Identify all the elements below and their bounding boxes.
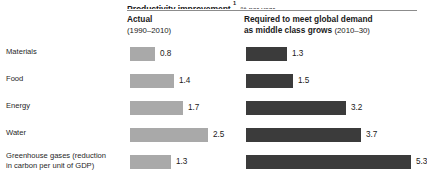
row-label-food-line1: Food	[6, 74, 23, 83]
bar-required-materials	[246, 47, 287, 61]
bar-cell-actual-greenhouse-gases: 1.3	[130, 154, 187, 169]
title-divider	[127, 10, 417, 11]
row-label-greenhouse-gases: Greenhouse gases (reduction in carbon pe…	[6, 151, 124, 170]
column-header-required: Required to meet global demand as middle…	[244, 14, 422, 36]
bar-value-required-greenhouse-gases: 5.3	[416, 157, 427, 166]
bar-actual-energy	[130, 101, 183, 115]
row-label-materials-line1: Materials	[6, 47, 37, 56]
bar-value-required-energy: 3.2	[351, 103, 362, 112]
row-label-greenhouse-gases-line1: Greenhouse gases (reduction	[6, 151, 106, 160]
bar-required-greenhouse-gases	[246, 155, 411, 169]
bar-actual-water	[130, 128, 208, 142]
bar-value-required-food: 1.5	[298, 76, 309, 85]
column-header-required-label-line2: as middle class grows	[244, 25, 332, 35]
row-label-water: Water	[6, 128, 124, 138]
bar-cell-required-food: 1.5	[246, 73, 309, 88]
row-label-food: Food	[6, 74, 124, 84]
bar-actual-greenhouse-gases	[130, 155, 171, 169]
bar-cell-required-energy: 3.2	[246, 100, 362, 115]
row-label-energy-line1: Energy	[6, 101, 30, 110]
bar-actual-materials	[130, 47, 155, 61]
bar-actual-food	[130, 74, 174, 88]
bar-cell-actual-food: 1.4	[130, 73, 190, 88]
bar-value-actual-energy: 1.7	[188, 103, 199, 112]
row-label-greenhouse-gases-line2: in carbon per unit of GDP)	[6, 161, 94, 170]
bar-required-water	[246, 128, 361, 142]
bar-cell-required-materials: 1.3	[246, 46, 303, 61]
bar-cell-required-greenhouse-gases: 5.3	[246, 154, 427, 169]
column-header-actual-period: (1990–2010)	[127, 26, 171, 35]
bar-cell-actual-energy: 1.7	[130, 100, 199, 115]
chart-title-main: Productivity improvement,	[127, 4, 233, 9]
bar-value-actual-food: 1.4	[179, 76, 190, 85]
bar-cell-actual-materials: 0.8	[130, 46, 171, 61]
row-label-materials: Materials	[6, 47, 124, 57]
chart-title-unit: % per year	[240, 5, 275, 9]
chart-title: Productivity improvement,1 % per year	[127, 0, 417, 9]
bar-value-required-water: 3.7	[366, 130, 377, 139]
bar-value-actual-water: 2.5	[213, 130, 224, 139]
bar-value-actual-greenhouse-gases: 1.3	[176, 157, 187, 166]
row-label-water-line1: Water	[6, 128, 26, 137]
column-header-required-period: (2010–30)	[334, 26, 370, 35]
bar-required-energy	[246, 101, 346, 115]
chart-title-footnote-marker: 1	[233, 0, 236, 6]
bar-cell-actual-water: 2.5	[130, 127, 224, 142]
bar-value-required-materials: 1.3	[292, 49, 303, 58]
column-header-required-label-line1: Required to meet global demand	[244, 14, 422, 25]
bar-required-food	[246, 74, 293, 88]
column-header-actual: Actual (1990–2010)	[127, 14, 237, 36]
row-label-energy: Energy	[6, 101, 124, 111]
bar-value-actual-materials: 0.8	[160, 49, 171, 58]
bar-cell-required-water: 3.7	[246, 127, 377, 142]
column-header-actual-label: Actual	[127, 14, 237, 25]
